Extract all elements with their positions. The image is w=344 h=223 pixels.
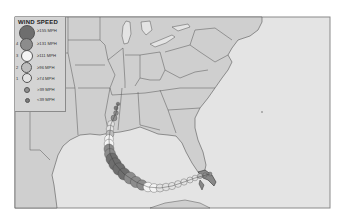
legend-circle-icon <box>21 50 33 62</box>
legend-label: ≥74 MPH <box>37 76 54 81</box>
legend-category: 3 <box>16 53 18 58</box>
wind-speed-legend: WIND SPEED ≥155 MPH 4 ≥131 MPH 3 ≥111 MP… <box>15 17 66 112</box>
legend-circle-icon <box>22 73 32 83</box>
legend-item: 3 ≥111 MPH <box>15 51 65 61</box>
legend-circle-icon <box>24 87 30 93</box>
small-island-dot <box>261 111 262 112</box>
legend-label: ≥96 MPH <box>37 65 54 70</box>
legend-item: 2 ≥96 MPH <box>15 63 65 73</box>
legend-label: ≥131 MPH <box>37 41 57 46</box>
legend-item: 4 ≥131 MPH <box>15 39 65 49</box>
legend-item: <39 MPH <box>15 95 65 105</box>
legend-item: >39 MPH <box>15 85 65 95</box>
legend-label: >39 MPH <box>37 87 55 92</box>
legend-label: ≥111 MPH <box>37 53 56 58</box>
legend-category: 1 <box>16 76 18 81</box>
legend-label: <39 MPH <box>37 97 55 102</box>
legend-circle-icon <box>21 62 32 73</box>
legend-item: 1 ≥74 MPH <box>15 74 65 84</box>
legend-label: ≥155 MPH <box>37 28 57 33</box>
legend-category: 4 <box>16 41 18 46</box>
legend-category: 2 <box>16 65 18 70</box>
legend-title: WIND SPEED <box>18 19 58 25</box>
legend-item: ≥155 MPH <box>15 26 65 36</box>
legend-circle-icon <box>25 98 30 103</box>
